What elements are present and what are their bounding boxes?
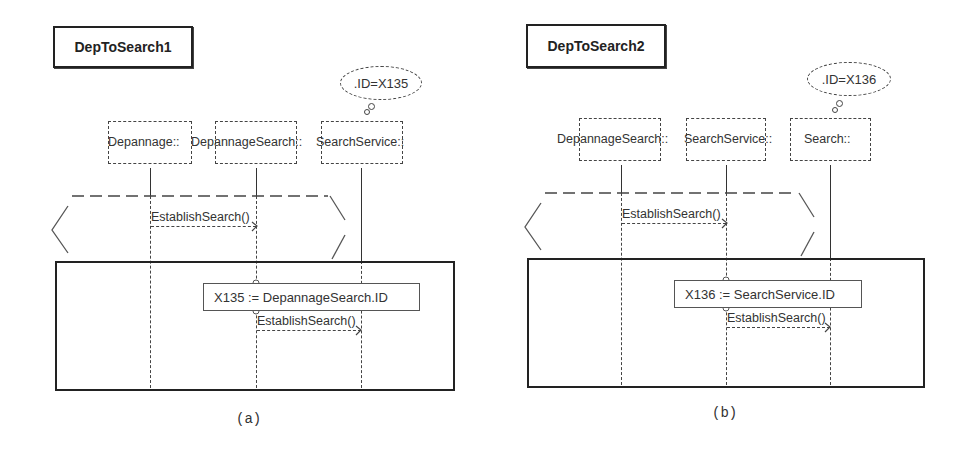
message-arrow[interactable] <box>727 327 830 328</box>
assignment-note: X136 := SearchService.ID <box>674 280 862 308</box>
message-label: EstablishSearch() <box>257 314 356 328</box>
message-arrow[interactable] <box>622 223 726 224</box>
figure-caption: (b) <box>712 405 737 421</box>
message-label: EstablishSearch() <box>151 210 250 224</box>
message-label: EstablishSearch() <box>727 311 826 325</box>
figure-caption: (a) <box>236 411 261 427</box>
message-arrow[interactable] <box>151 226 256 227</box>
diagram-panel-a: DepToSearch1 .ID=X135 Depannage:: Depann… <box>0 0 487 453</box>
message-label: EstablishSearch() <box>622 207 721 221</box>
message-arrow[interactable] <box>257 330 361 331</box>
combined-fragment-frame <box>527 258 925 388</box>
combined-fragment-frame <box>55 261 455 391</box>
diagram-panel-b: DepToSearch2 .ID=X136 DepannageSearch:: … <box>487 0 974 453</box>
assignment-note: X135 := DepannageSearch.ID <box>203 283 420 311</box>
